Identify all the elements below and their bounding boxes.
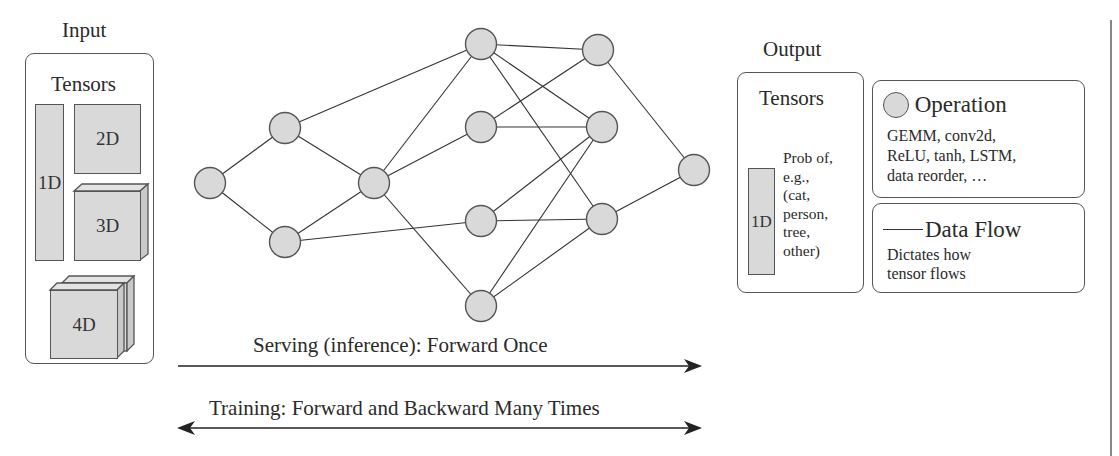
- legend-dataflow-title: Data Flow: [925, 217, 1021, 242]
- output-title: Output: [763, 37, 821, 62]
- output-desc-line: tree,: [783, 223, 833, 242]
- legend-dataflow-line: tensor flows: [887, 264, 971, 283]
- output-desc-line: other): [783, 242, 833, 261]
- legend-operation-header: Operation: [883, 90, 1007, 118]
- legend-operation-line: GEMM, conv2d,: [887, 126, 1016, 146]
- output-desc-line: Prob of,: [783, 149, 833, 168]
- output-tensors-title: Tensors: [759, 86, 824, 111]
- output-description: Prob of, e.g., (cat, person, tree, other…: [783, 149, 833, 261]
- legend-operation-desc: GEMM, conv2d, ReLU, tanh, LSTM, data reo…: [887, 126, 1016, 186]
- operation-node-icon: [883, 92, 909, 118]
- legend-dataflow-desc: Dictates how tensor flows: [887, 245, 971, 283]
- serving-arrow: [178, 359, 702, 373]
- right-border-rule: [1110, 20, 1112, 456]
- legend-dataflow-header: Data Flow: [883, 215, 1021, 243]
- output-desc-line: (cat,: [783, 186, 833, 205]
- output-tensor-1d-label: 1D: [751, 212, 772, 232]
- training-arrow: [177, 421, 702, 435]
- legend-operation-line: data reorder, …: [887, 166, 1016, 186]
- output-tensor-1d: 1D: [748, 168, 775, 275]
- legend-dataflow-line: Dictates how: [887, 245, 971, 264]
- legend-operation-title: Operation: [915, 92, 1007, 117]
- legend-operation-line: ReLU, tanh, LSTM,: [887, 146, 1016, 166]
- output-desc-line: e.g.,: [783, 168, 833, 187]
- output-desc-line: person,: [783, 205, 833, 224]
- data-flow-line-icon: [883, 229, 923, 230]
